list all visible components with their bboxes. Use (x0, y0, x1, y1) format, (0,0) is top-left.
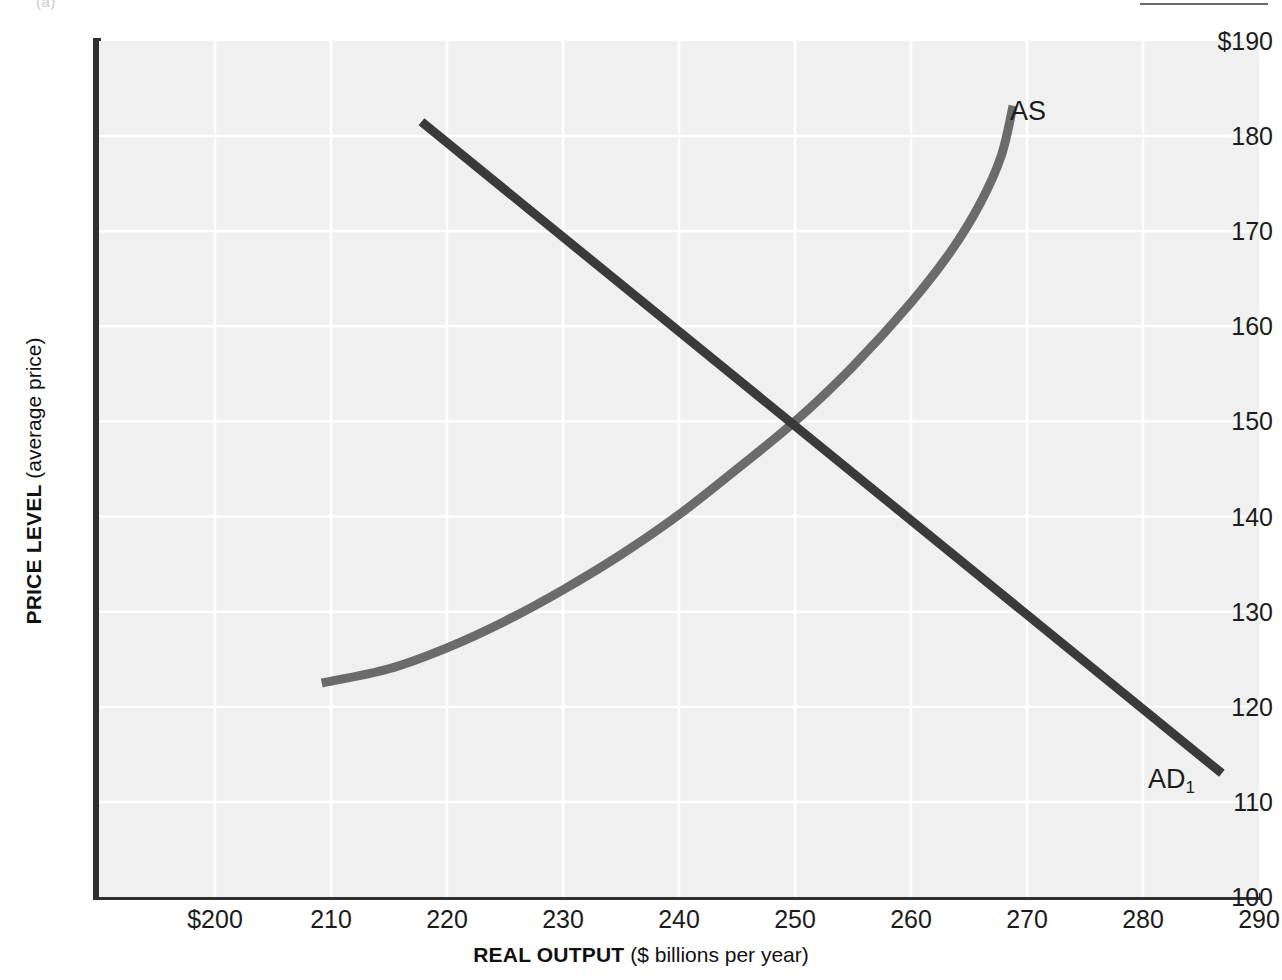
x-tick-label: 240 (658, 905, 700, 934)
x-axis-title-bold: REAL OUTPUT (473, 943, 624, 966)
y-tick-label: 120 (1190, 692, 1282, 721)
y-tick-label: 160 (1190, 312, 1282, 341)
y-tick-label: 110 (1190, 787, 1282, 816)
x-tick-label: 260 (890, 905, 932, 934)
x-tick-label: $200 (187, 905, 243, 934)
x-tick-label: 250 (774, 905, 816, 934)
x-axis-title: REAL OUTPUT ($ billions per year) (0, 943, 1282, 967)
data-curves (322, 106, 1222, 774)
figure-container: (a) 100110120130140150160170180$190 $200… (0, 0, 1282, 980)
gridlines (99, 41, 1259, 897)
x-axis-title-light: ($ billions per year) (630, 943, 809, 966)
y-axis-title: PRICE LEVEL (average price) (22, 271, 46, 691)
curve-as (322, 106, 1013, 683)
y-tick-label: 170 (1190, 217, 1282, 246)
y-axis-title-light: (average price) (22, 338, 45, 479)
plot-area (99, 41, 1259, 897)
curve-label-ad1: AD1 (1148, 764, 1195, 795)
y-axis-title-bold: PRICE LEVEL (22, 485, 45, 625)
curve-label-ad1-subscript: 1 (1186, 778, 1195, 797)
curve-label-as: AS (1010, 96, 1046, 127)
y-tick-label: 180 (1190, 122, 1282, 151)
curve-label-ad1-text: AD (1148, 764, 1186, 794)
x-tick-label: 280 (1122, 905, 1164, 934)
y-tick-label: $190 (1190, 27, 1282, 56)
page-rule-divider (1140, 3, 1268, 5)
x-tick-label: 290 (1238, 905, 1280, 934)
x-tick-label: 220 (426, 905, 468, 934)
x-tick-label: 210 (310, 905, 352, 934)
y-tick-label: 140 (1190, 502, 1282, 531)
x-tick-label: 230 (542, 905, 584, 934)
chart-svg (99, 41, 1259, 897)
curve-label-as-text: AS (1010, 96, 1046, 126)
y-tick-label: 130 (1190, 597, 1282, 626)
figure-part-caption: (a) (36, 0, 56, 10)
curve-ad1 (421, 122, 1221, 774)
x-tick-label: 270 (1006, 905, 1048, 934)
y-tick-label: 150 (1190, 407, 1282, 436)
